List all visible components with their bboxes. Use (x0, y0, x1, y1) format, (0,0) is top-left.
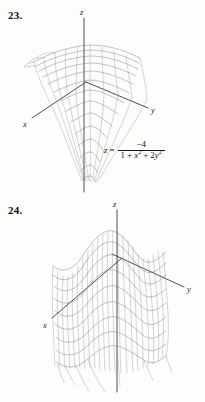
z-axis-label-24: z (112, 199, 117, 209)
y-axis-label-23: y (150, 105, 155, 115)
eq23-den-plus-2: + (143, 150, 148, 160)
figure-23-surface-plot: z x y (0, 0, 205, 196)
eq23-den-x-exponent: 2 (138, 148, 141, 155)
surface-mesh-u-23 (34, 45, 140, 182)
figure-23-svg: z x y (0, 0, 205, 196)
eq23-lhs: z (104, 145, 108, 155)
figure-24-surface-plot: z x y (0, 196, 205, 402)
equation-23: z = −4 1+x2+2y2 (104, 140, 166, 161)
problem-23: 23. (0, 0, 205, 196)
x-axis-label-23: x (22, 119, 27, 129)
eq23-equals: = (110, 145, 115, 155)
eq23-den-plus-1: + (127, 150, 132, 160)
y-axis-label-24: y (186, 284, 191, 294)
eq23-fraction: −4 1+x2+2y2 (118, 140, 165, 161)
surface-mesh-ribs-24 (52, 231, 168, 373)
eq23-denominator: 1+x2+2y2 (118, 151, 165, 161)
surface-mesh-contours-24 (53, 231, 166, 367)
problem-24: 24. (0, 196, 205, 402)
surface-flare-23 (24, 53, 55, 67)
figure-24-svg: z x y (0, 196, 205, 402)
z-axis-label-23: z (79, 7, 84, 17)
textbook-page: 23. (0, 0, 205, 402)
x-axis-label-24: x (42, 320, 47, 330)
eq23-den-y-exponent: 2 (159, 148, 162, 155)
eq23-den-one: 1 (121, 150, 126, 160)
